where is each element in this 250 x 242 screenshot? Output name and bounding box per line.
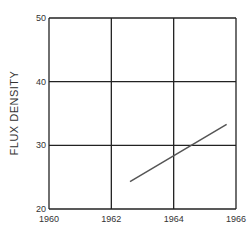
x-tick-label: 1962	[101, 214, 121, 224]
flux-density-chart: 196019621964196620304050	[0, 0, 250, 242]
x-tick-label: 1964	[164, 214, 184, 224]
data-series	[130, 124, 227, 181]
y-tick-label: 20	[36, 204, 46, 214]
grid	[49, 18, 236, 209]
y-tick-label: 30	[36, 140, 46, 150]
tick-labels: 196019621964196620304050	[36, 13, 246, 224]
x-tick-label: 1960	[39, 214, 59, 224]
y-tick-label: 50	[36, 13, 46, 23]
y-tick-label: 40	[36, 77, 46, 87]
x-tick-label: 1966	[226, 214, 246, 224]
series-line	[130, 124, 227, 181]
